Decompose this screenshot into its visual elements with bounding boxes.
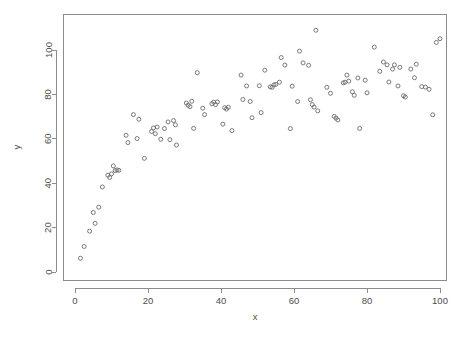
x-tick-label: 60 xyxy=(289,295,300,306)
y-tick-label: 80 xyxy=(43,89,54,100)
x-tick-label: 40 xyxy=(216,295,227,306)
scatter-plot-figure: 020406080100 020406080100 x y xyxy=(0,0,466,340)
x-tick-label: 0 xyxy=(72,295,77,306)
x-tick-label: 80 xyxy=(362,295,373,306)
x-tick-label: 20 xyxy=(143,295,154,306)
y-axis-title: y xyxy=(11,144,22,149)
x-tick-label: 100 xyxy=(432,295,448,306)
figure-background xyxy=(0,0,466,340)
y-tick-label: 40 xyxy=(43,178,54,189)
y-tick-label: 100 xyxy=(43,42,54,58)
chart-canvas: 020406080100 020406080100 x y xyxy=(0,0,466,340)
y-tick-label: 0 xyxy=(43,269,54,274)
y-tick-label: 20 xyxy=(43,222,54,233)
y-tick-label: 60 xyxy=(43,134,54,145)
x-axis-title: x xyxy=(253,311,258,322)
